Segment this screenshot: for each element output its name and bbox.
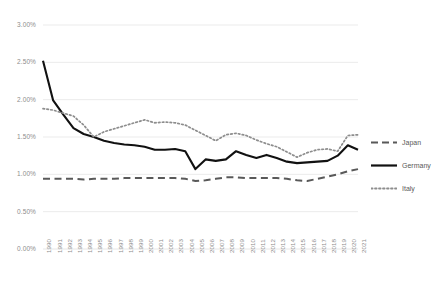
x-axis-tick-label: 2013 xyxy=(279,239,286,253)
x-axis-tick-label: 2017 xyxy=(320,239,327,253)
legend-label-germany: Germany xyxy=(402,162,431,169)
series-line-germany xyxy=(43,61,358,169)
x-axis-tick-label: 2002 xyxy=(167,239,174,253)
y-axis-tick-label: 1.00% xyxy=(2,170,36,177)
chart-legend: Japan Germany Italy xyxy=(371,131,441,200)
x-axis-tick-label: 2021 xyxy=(360,239,367,253)
y-axis-tick-label: 2.50% xyxy=(2,58,36,65)
y-axis-tick-label: 1.50% xyxy=(2,133,36,140)
line-chart: 0.00%0.50%1.00%1.50%2.00%2.50%3.00% 1990… xyxy=(0,0,443,282)
legend-item-italy[interactable]: Italy xyxy=(371,177,441,200)
series-line-japan xyxy=(43,169,358,181)
x-axis-tick-label: 1995 xyxy=(96,239,103,253)
x-axis-tick-label: 2014 xyxy=(289,239,296,253)
y-axis-tick-label: 3.00% xyxy=(2,21,36,28)
x-axis-tick-label: 1991 xyxy=(56,239,63,253)
x-axis-tick-label: 2004 xyxy=(188,239,195,253)
x-axis-tick-label: 1997 xyxy=(117,239,124,253)
x-axis-tick-label: 2020 xyxy=(350,239,357,253)
x-axis-tick-label: 2006 xyxy=(208,239,215,253)
x-axis-tick-label: 2015 xyxy=(299,239,306,253)
x-axis-tick-label: 1994 xyxy=(86,239,93,253)
x-axis-tick-label: 2018 xyxy=(330,239,337,253)
legend-label-italy: Italy xyxy=(402,185,415,192)
x-axis-tick-label: 1996 xyxy=(106,239,113,253)
x-axis-tick-label: 2010 xyxy=(249,239,256,253)
x-axis-tick-label: 2009 xyxy=(238,239,245,253)
y-axis-tick-label: 0.50% xyxy=(2,208,36,215)
legend-item-germany[interactable]: Germany xyxy=(371,154,441,177)
y-axis-tick-label: 2.00% xyxy=(2,96,36,103)
y-axis-tick-label: 0.00% xyxy=(2,245,36,252)
x-axis-tick-label: 2000 xyxy=(147,239,154,253)
x-axis-tick-label: 2011 xyxy=(259,239,266,253)
dotted-line-key xyxy=(371,184,397,193)
dashed-line-key xyxy=(371,138,397,147)
x-axis-tick-label: 2001 xyxy=(157,239,164,253)
x-axis-tick-label: 1992 xyxy=(66,239,73,253)
legend-item-japan[interactable]: Japan xyxy=(371,131,441,154)
x-axis-tick-label: 2003 xyxy=(177,239,184,253)
x-axis-tick-label: 1990 xyxy=(45,239,52,253)
x-axis-tick-label: 1993 xyxy=(76,239,83,253)
series-line-italy xyxy=(43,109,358,158)
solid-line-key xyxy=(371,161,397,170)
x-axis-tick-label: 2012 xyxy=(269,239,276,253)
legend-label-japan: Japan xyxy=(402,139,421,146)
x-axis-tick-label: 2019 xyxy=(340,239,347,253)
x-axis-tick-label: 2016 xyxy=(310,239,317,253)
x-axis-tick-label: 2005 xyxy=(198,239,205,253)
x-axis-tick-label: 1999 xyxy=(137,239,144,253)
x-axis-tick-label: 1998 xyxy=(127,239,134,253)
x-axis-tick-label: 2008 xyxy=(228,239,235,253)
x-axis-tick-label: 2007 xyxy=(218,239,225,253)
